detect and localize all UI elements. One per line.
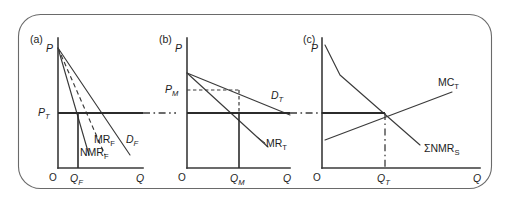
economics-figure: (a) P PT O QF Q MRF	[0, 0, 510, 203]
panel-b-mr-label-subscript: T	[282, 143, 287, 152]
panel-c-quantity-mark-subscript: T	[385, 178, 391, 187]
panel-a-price-level-label: PT	[38, 106, 51, 121]
panel-a-mr-label-base: MR	[94, 133, 111, 145]
panel-c-origin-label: O	[313, 172, 321, 183]
panel-c-sum-nmr-label: ΣNMRS	[424, 142, 459, 157]
panel-c-mc-label-base: MC	[438, 76, 455, 88]
panel-a-nmr-label-base: NMR	[80, 146, 104, 158]
panel-a-x-axis-label: Q	[136, 172, 144, 184]
panel-a-mr-label-subscript: F	[110, 139, 115, 148]
figure-canvas: (a) P PT O QF Q MRF	[0, 0, 510, 203]
panel-b-marginal-revenue-total-curve	[187, 73, 268, 147]
panel-b-mr-curve-label: MRT	[266, 137, 287, 152]
panel-a-net-marginal-revenue-firm-curve	[58, 48, 89, 155]
panel-b-demand-label-subscript: T	[279, 95, 285, 104]
panel-b-mr-label-base: MR	[266, 137, 283, 149]
panel-a-tag: (a)	[30, 33, 43, 45]
panel-a-price-level-subscript: T	[45, 112, 51, 121]
panel-b-y-axis-label: P	[175, 42, 182, 54]
panel-a-demand-label-subscript: F	[134, 139, 139, 148]
panel-b-price-level-label: PM	[165, 83, 179, 98]
panel-b-quantity-mark-base: Q	[230, 172, 238, 184]
panel-b-x-axis-label: Q	[283, 172, 291, 184]
panel-c-marginal-cost-curve	[325, 92, 452, 140]
panel-a-y-axis-label: P	[46, 42, 53, 54]
panel-b-quantity-mark-subscript: M	[238, 178, 245, 187]
panel-c-sum-net-marginal-revenue-curve	[325, 45, 420, 145]
panel-a-nmr-curve-label: NMRF	[80, 146, 109, 161]
panel-c-sum-nmr-label-base: ΣNMR	[424, 142, 455, 154]
panel-b-demand-curve-label: DT	[271, 89, 285, 104]
panel-c-x-axis-label: Q	[473, 172, 481, 184]
panel-b-price-level-subscript: M	[172, 89, 179, 98]
panel-a-quantity-mark-label: QF	[70, 172, 83, 187]
figure-frame	[19, 15, 492, 189]
panel-c-sum-nmr-label-subscript: S	[454, 148, 459, 157]
panel-b-quantity-mark-label: QM	[230, 172, 245, 187]
panel-c-marginal-cost-label: MCT	[438, 76, 459, 91]
panel-a-quantity-mark-subscript: F	[78, 178, 83, 187]
panel-a-price-level-base: P	[38, 106, 45, 118]
panel-c-quantity-mark-label: QT	[377, 172, 391, 187]
panel-b-tag: (b)	[159, 33, 172, 45]
panel-b-mr-label-leader	[257, 137, 265, 143]
panel-c-quantity-mark-base: Q	[377, 172, 385, 184]
panel-b-price-level-base: P	[165, 83, 172, 95]
panel-a-demand-curve-label: DF	[126, 133, 139, 148]
panel-b-origin-label: O	[178, 172, 186, 183]
panel-c-y-axis-label: P	[311, 42, 318, 54]
panel-a-origin-label: O	[49, 172, 57, 183]
panel-c: (c) P O QT Q MCT ΣNMRS	[303, 33, 481, 187]
panel-c-mc-label-subscript: T	[454, 82, 459, 91]
panel-a: (a) P PT O QF Q MRF	[30, 33, 144, 187]
panel-b: (b) P PM O QM Q	[159, 33, 291, 187]
panel-a-quantity-mark-base: Q	[70, 172, 78, 184]
panel-a-nmr-label-subscript: F	[104, 152, 109, 161]
